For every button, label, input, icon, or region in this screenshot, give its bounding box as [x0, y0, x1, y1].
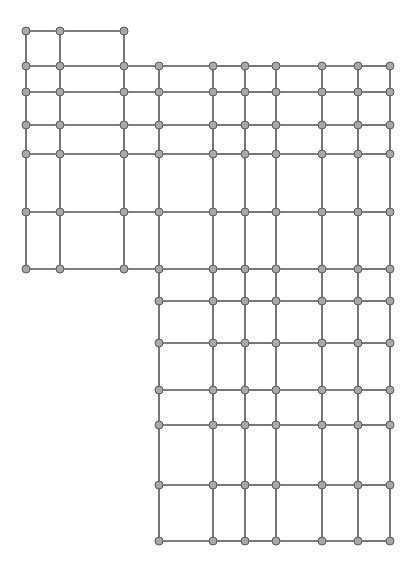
grid-node	[318, 208, 326, 216]
grid-node	[386, 481, 394, 489]
grid-node	[386, 537, 394, 545]
grid-node	[386, 88, 394, 96]
grid-node	[272, 297, 280, 305]
grid-node	[272, 339, 280, 347]
grid-node	[209, 421, 217, 429]
grid-node	[22, 27, 30, 35]
grid-node	[272, 88, 280, 96]
grid-node	[386, 121, 394, 129]
grid-node	[241, 88, 249, 96]
grid-node	[241, 62, 249, 70]
nodes	[22, 27, 394, 545]
grid-node	[155, 88, 163, 96]
grid-node	[241, 339, 249, 347]
grid-node	[56, 121, 64, 129]
grid-node	[272, 121, 280, 129]
grid-node	[318, 421, 326, 429]
grid-node	[386, 339, 394, 347]
grid-node	[318, 265, 326, 273]
grid-node	[241, 421, 249, 429]
grid-node	[386, 421, 394, 429]
grid-node	[22, 121, 30, 129]
grid-node	[272, 265, 280, 273]
grid-node	[241, 537, 249, 545]
grid-node	[318, 150, 326, 158]
grid-node	[318, 88, 326, 96]
grid-node	[56, 88, 64, 96]
grid-node	[209, 481, 217, 489]
grid-node	[318, 297, 326, 305]
grid-node	[318, 339, 326, 347]
grid-node	[386, 62, 394, 70]
grid-node	[209, 150, 217, 158]
grid-node	[241, 265, 249, 273]
grid-node	[209, 386, 217, 394]
grid-node	[22, 150, 30, 158]
grid-node	[155, 386, 163, 394]
grid-node	[386, 208, 394, 216]
grid-node	[386, 386, 394, 394]
grid-node	[354, 537, 362, 545]
grid-node	[209, 88, 217, 96]
grid-node	[354, 62, 362, 70]
grid-node	[241, 481, 249, 489]
grid-node	[155, 62, 163, 70]
grid-node	[209, 265, 217, 273]
grid-node	[120, 121, 128, 129]
grid-node	[155, 208, 163, 216]
grid-node	[272, 150, 280, 158]
grid-node	[56, 62, 64, 70]
grid-node	[120, 208, 128, 216]
grid-node	[318, 121, 326, 129]
grid-node	[120, 88, 128, 96]
grid-node	[241, 121, 249, 129]
grid-node	[354, 265, 362, 273]
grid-node	[318, 537, 326, 545]
grid-node	[272, 208, 280, 216]
grid-node	[241, 208, 249, 216]
grid-node	[354, 208, 362, 216]
grid-node	[209, 537, 217, 545]
grid-node	[120, 62, 128, 70]
grid-node	[386, 150, 394, 158]
grid-node	[354, 386, 362, 394]
grid-node	[354, 297, 362, 305]
grid-node	[209, 121, 217, 129]
grid-node	[22, 88, 30, 96]
grid-node	[56, 208, 64, 216]
grid-node	[272, 537, 280, 545]
grid-node	[56, 265, 64, 273]
edges	[26, 31, 390, 541]
grid-node	[354, 150, 362, 158]
grid-node	[22, 62, 30, 70]
grid-node	[354, 88, 362, 96]
grid-node	[318, 62, 326, 70]
grid-node	[120, 27, 128, 35]
grid-node	[155, 537, 163, 545]
grid-node	[209, 62, 217, 70]
grid-node	[354, 339, 362, 347]
grid-node	[241, 150, 249, 158]
grid-node	[241, 386, 249, 394]
grid-node	[155, 339, 163, 347]
grid-node	[272, 481, 280, 489]
grid-node	[209, 297, 217, 305]
grid-node	[386, 297, 394, 305]
grid-node	[22, 265, 30, 273]
grid-node	[155, 481, 163, 489]
grid-node	[209, 339, 217, 347]
grid-node	[56, 150, 64, 158]
grid-node	[272, 62, 280, 70]
grid-node	[272, 386, 280, 394]
grid-node	[155, 265, 163, 273]
grid-node	[272, 421, 280, 429]
grid-graph-diagram	[0, 0, 416, 568]
grid-node	[354, 121, 362, 129]
grid-node	[209, 208, 217, 216]
grid-node	[120, 150, 128, 158]
grid-node	[318, 386, 326, 394]
grid-node	[318, 481, 326, 489]
grid-node	[241, 297, 249, 305]
grid-node	[155, 150, 163, 158]
grid-node	[354, 481, 362, 489]
